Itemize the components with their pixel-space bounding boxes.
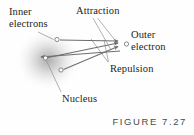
inner-electron-upper-dot — [55, 37, 59, 41]
label-nucleus: Nucleus — [62, 93, 97, 105]
figure-caption: FIGURE 7.27 — [112, 116, 187, 127]
figure-container: Inner electrons Attraction Outer electro… — [0, 0, 194, 136]
electron-cloud — [15, 29, 81, 91]
label-inner-electrons: Inner electrons — [9, 6, 48, 29]
leader-repulsion-a — [91, 39, 108, 62]
label-inner-electrons-line1: Inner — [9, 6, 32, 17]
label-inner-electrons-line2: electrons — [9, 18, 48, 30]
label-outer-electron: Outer electron — [131, 29, 166, 52]
outer-electron-dot — [124, 42, 128, 46]
label-outer-electron-line2: electron — [131, 41, 166, 53]
nucleus-dot — [43, 56, 47, 60]
label-repulsion: Repulsion — [110, 63, 154, 75]
inner-electron-lower-dot — [59, 68, 63, 72]
label-outer-electron-line1: Outer — [131, 29, 155, 40]
label-attraction: Attraction — [76, 5, 120, 17]
